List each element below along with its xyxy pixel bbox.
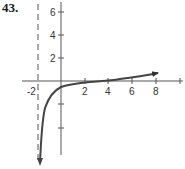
x-tick-label: -2 <box>27 86 36 97</box>
chart: -2 2 4 6 8 2 4 6 <box>0 0 185 169</box>
y-tick-label: 6 <box>50 7 56 18</box>
x-tick-label: 6 <box>129 86 135 97</box>
x-tick-label: 8 <box>153 86 159 97</box>
y-tick-label: 4 <box>50 30 56 41</box>
x-tick-label: 2 <box>82 86 88 97</box>
curve-down-arrow <box>37 158 43 166</box>
log-curve <box>40 73 158 163</box>
y-tick-label: 2 <box>50 53 56 64</box>
x-tick-label: 4 <box>105 86 111 97</box>
